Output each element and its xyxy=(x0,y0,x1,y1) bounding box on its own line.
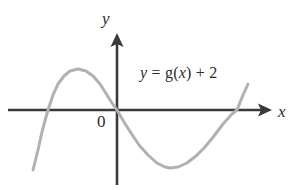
function-curve xyxy=(33,69,248,170)
x-axis-label: x xyxy=(278,103,286,120)
equation-constant: 2 xyxy=(209,64,217,81)
equation-equals-sign: = xyxy=(147,64,165,81)
y-axis-label: y xyxy=(102,10,110,27)
origin-label: 0 xyxy=(97,113,106,130)
equation-function-name: g xyxy=(165,64,173,81)
coordinate-plane xyxy=(0,0,296,190)
graph-figure: y x 0 y = g(x) + 2 xyxy=(0,0,296,190)
equation-plus-sign: + xyxy=(192,64,210,81)
equation-argument-variable: x xyxy=(179,64,186,81)
equation-annotation: y = g(x) + 2 xyxy=(140,65,217,81)
